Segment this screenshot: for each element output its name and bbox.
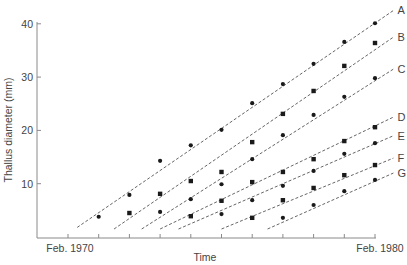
square-marker <box>311 157 315 161</box>
circle-marker <box>342 152 346 156</box>
y-tick-label: 10 <box>21 178 33 190</box>
square-marker <box>250 216 254 220</box>
fit-line-f <box>222 158 394 229</box>
circle-marker <box>250 101 254 105</box>
circle-marker <box>97 215 101 219</box>
fit-lines <box>77 10 393 229</box>
y-axis-title: Thallus diameter (mm) <box>2 77 14 182</box>
series-label-e: E <box>397 130 404 142</box>
circle-marker <box>189 143 193 147</box>
circle-marker <box>373 21 377 25</box>
x-tick-label-end: Feb. 1980 <box>356 242 403 254</box>
square-marker <box>342 64 346 68</box>
x-tick-label-start: Feb. 1970 <box>46 242 93 254</box>
circle-marker <box>158 159 162 163</box>
square-marker <box>342 139 346 143</box>
circle-marker <box>373 141 377 145</box>
square-marker <box>311 186 315 190</box>
y-tick-label: 20 <box>21 124 33 136</box>
circle-marker <box>250 198 254 202</box>
series-label-a: A <box>397 4 405 16</box>
series-label-g: G <box>397 167 406 179</box>
series-label-d: D <box>397 111 405 123</box>
circle-marker <box>312 113 316 117</box>
square-marker <box>311 89 315 93</box>
square-marker <box>342 173 346 177</box>
circle-marker <box>219 212 223 216</box>
series-label-b: B <box>397 31 404 43</box>
square-marker <box>373 125 377 129</box>
square-marker <box>281 112 285 116</box>
fit-line-c <box>142 69 394 229</box>
fit-line-e <box>179 136 394 229</box>
series-labels: ABCDEFG <box>397 4 406 179</box>
circle-marker <box>158 210 162 214</box>
circle-marker <box>342 189 346 193</box>
circle-marker <box>281 184 285 188</box>
square-marker <box>189 179 193 183</box>
circle-marker <box>312 169 316 173</box>
y-tick-label: 40 <box>21 18 33 30</box>
square-marker <box>250 180 254 184</box>
axes: 10203040 <box>21 18 376 238</box>
circle-marker <box>373 178 377 182</box>
square-marker <box>219 199 223 203</box>
circle-marker <box>373 76 377 80</box>
circle-marker <box>342 95 346 99</box>
square-marker <box>127 211 131 215</box>
circle-marker <box>281 82 285 86</box>
circle-marker <box>312 203 316 207</box>
circle-marker <box>281 216 285 220</box>
circle-marker <box>342 40 346 44</box>
circle-marker <box>189 197 193 201</box>
y-tick-label: 30 <box>21 71 33 83</box>
circle-marker <box>219 182 223 186</box>
circle-marker <box>219 128 223 132</box>
x-axis-title: Time <box>194 251 217 263</box>
square-marker <box>158 192 162 196</box>
square-marker <box>250 140 254 144</box>
square-marker <box>189 214 193 218</box>
square-marker <box>373 41 377 45</box>
fit-line-d <box>160 117 393 229</box>
square-marker <box>219 170 223 174</box>
circle-marker <box>127 193 131 197</box>
line-chart: 10203040 ABCDEFG Thallus diameter (mm) T… <box>0 0 407 265</box>
square-marker <box>281 198 285 202</box>
square-marker <box>281 170 285 174</box>
circle-marker <box>281 133 285 137</box>
circle-marker <box>250 157 254 161</box>
series-label-c: C <box>397 63 405 75</box>
square-marker <box>373 163 377 167</box>
circle-marker <box>312 62 316 66</box>
series-label-f: F <box>397 152 404 164</box>
